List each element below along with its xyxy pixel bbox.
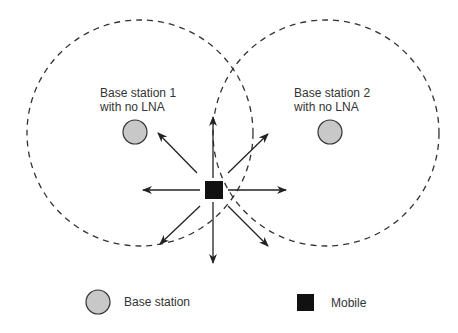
- base-station-2-label-line2: with no LNA: [294, 100, 370, 114]
- legend-mobile-label: Mobile: [331, 296, 366, 310]
- base-station-1-label-line1: Base station 1: [100, 86, 176, 100]
- base-station-2-icon: [318, 120, 342, 144]
- legend-base-station-icon: [86, 290, 110, 314]
- base-station-2-label-line1: Base station 2: [294, 86, 370, 100]
- base-station-1-label-line2: with no LNA: [100, 100, 176, 114]
- diagram-canvas: [0, 0, 458, 333]
- legend-mobile-icon: [297, 294, 314, 311]
- mobile-icon: [205, 181, 223, 199]
- arrow-up-left: [158, 133, 197, 173]
- legend-base-station-label: Base station: [124, 295, 190, 309]
- base-station-1-icon: [123, 120, 147, 144]
- base-station-1-label: Base station 1 with no LNA: [100, 86, 176, 114]
- base-station-2-label: Base station 2 with no LNA: [294, 86, 370, 114]
